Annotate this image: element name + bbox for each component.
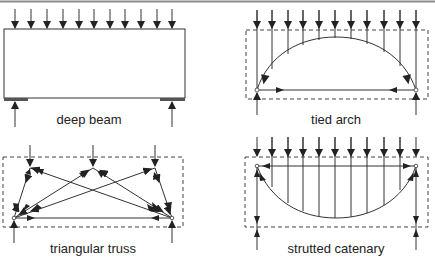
bearing-plate-right — [160, 98, 185, 101]
node-right — [414, 88, 418, 92]
label-triangular-truss: triangular truss — [50, 241, 136, 256]
label-strutted-catenary: strutted catenary — [288, 241, 385, 256]
panel-triangular-truss: triangular truss — [3, 145, 183, 256]
beam-body — [4, 29, 185, 98]
hanger-load-arrows — [257, 137, 416, 218]
catenary-arrow-right — [407, 173, 414, 181]
label-tied-arch: tied arch — [311, 112, 361, 127]
panel-tied-arch: tied arch — [246, 10, 428, 127]
node-top-right — [414, 164, 418, 168]
node-bottom-right — [170, 216, 174, 220]
arch-strut — [257, 37, 416, 90]
catenary-tie — [257, 166, 416, 218]
arch-arrow-left — [259, 71, 271, 84]
strut-and-tie-diagram: deep beam — [0, 0, 435, 258]
strut-arrow-left — [262, 163, 270, 169]
boundary-dashed — [246, 30, 428, 99]
node-bottom-left — [12, 216, 16, 220]
node-left — [255, 88, 259, 92]
panel-strutted-catenary: strutted catenary — [245, 137, 428, 256]
tie-arrow-left — [276, 87, 284, 93]
truss-members — [14, 168, 172, 218]
bearing-plate-left — [4, 98, 28, 101]
strut-arrow-right — [403, 163, 411, 169]
label-deep-beam: deep beam — [56, 112, 121, 127]
member-force-arrows — [13, 168, 172, 221]
node-top-left — [255, 164, 259, 168]
panel-deep-beam: deep beam — [4, 9, 185, 127]
catenary-arrow-left — [259, 173, 266, 181]
hanger-load-arrows — [257, 10, 416, 90]
distributed-load-arrows — [15, 9, 172, 28]
tie-arrow-right — [389, 87, 397, 93]
